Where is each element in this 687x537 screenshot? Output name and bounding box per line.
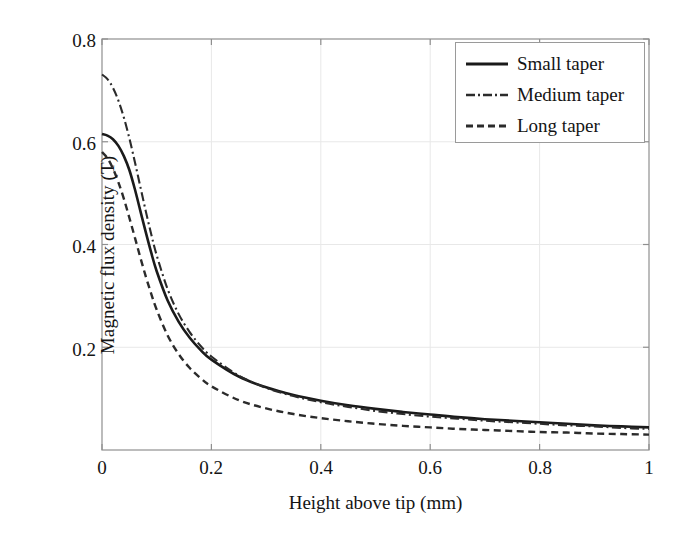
legend-label: Long taper [517, 116, 600, 135]
y-tick-label: 0.2 [50, 340, 96, 359]
x-tick-label: 1 [614, 458, 684, 477]
legend-label: Small taper [517, 54, 604, 73]
legend-line-dashdot-icon [465, 89, 509, 101]
legend-label: Medium taper [517, 85, 624, 104]
y-tick-label: 0.6 [50, 134, 96, 153]
figure: 0.8 0.6 0.4 0.2 0 0.2 0.4 0.6 0.8 1 Magn… [0, 0, 687, 537]
x-tick-label: 0.6 [395, 458, 465, 477]
x-tick-label: 0.2 [176, 458, 246, 477]
legend: Small taper Medium taper Long taper [455, 42, 645, 143]
legend-item-medium-taper: Medium taper [456, 79, 644, 110]
x-tick-label: 0.4 [286, 458, 356, 477]
legend-line-dashed-icon [465, 120, 509, 132]
legend-line-solid-icon [465, 58, 509, 70]
y-axis-tick-labels: 0.8 0.6 0.4 0.2 [44, 0, 96, 537]
x-axis-title: Height above tip (mm) [102, 492, 649, 514]
series-line [102, 152, 649, 435]
y-tick-label: 0.4 [50, 237, 96, 256]
y-axis-title: Magnetic flux density (T) [97, 45, 119, 465]
x-tick-label: 0.8 [505, 458, 575, 477]
legend-item-small-taper: Small taper [456, 48, 644, 79]
y-tick-label: 0.8 [50, 31, 96, 50]
legend-item-long-taper: Long taper [456, 110, 644, 141]
series-line [102, 134, 649, 427]
